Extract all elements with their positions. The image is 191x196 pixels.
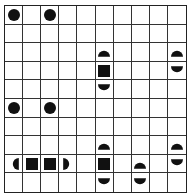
half-bottom-shape-icon bbox=[171, 159, 183, 165]
half-bottom-shape-icon bbox=[171, 66, 183, 72]
grid-cell bbox=[150, 80, 168, 99]
grid-cell bbox=[23, 62, 41, 81]
grid-cell bbox=[23, 99, 41, 118]
grid-cell bbox=[77, 6, 95, 25]
grid-cell bbox=[5, 118, 23, 137]
grid-cell bbox=[23, 155, 41, 174]
grid-cell bbox=[5, 155, 23, 174]
half-top-shape-icon bbox=[98, 51, 110, 57]
grid-cell bbox=[23, 118, 41, 137]
grid-cell bbox=[168, 25, 186, 44]
grid-cell bbox=[59, 25, 77, 44]
half-bottom-shape-icon bbox=[134, 178, 146, 184]
grid-cell bbox=[41, 6, 59, 25]
grid-cell bbox=[77, 25, 95, 44]
grid-cell bbox=[59, 43, 77, 62]
square-shape-icon bbox=[98, 158, 110, 170]
grid-cell bbox=[5, 173, 23, 192]
grid-cell bbox=[96, 80, 114, 99]
grid-cell bbox=[5, 25, 23, 44]
grid-cell bbox=[41, 136, 59, 155]
grid-cell bbox=[5, 62, 23, 81]
grid-cell bbox=[168, 173, 186, 192]
grid-cell bbox=[168, 136, 186, 155]
grid-cell bbox=[41, 118, 59, 137]
grid-cell bbox=[150, 43, 168, 62]
grid-cell bbox=[59, 155, 77, 174]
grid-cell bbox=[132, 173, 150, 192]
grid-cell bbox=[96, 99, 114, 118]
square-shape-icon bbox=[26, 158, 38, 170]
grid-cell bbox=[23, 80, 41, 99]
circle-shape-icon bbox=[44, 9, 56, 21]
grid-cell bbox=[41, 25, 59, 44]
half-right-shape-icon bbox=[63, 158, 69, 170]
grid-cell bbox=[132, 99, 150, 118]
grid-cell bbox=[59, 118, 77, 137]
grid-cell bbox=[59, 6, 77, 25]
circle-shape-icon bbox=[8, 9, 20, 21]
grid-cell bbox=[77, 80, 95, 99]
grid-cell bbox=[5, 6, 23, 25]
grid-cell bbox=[150, 6, 168, 25]
grid-cell bbox=[114, 6, 132, 25]
grid-cell bbox=[150, 62, 168, 81]
grid-cell bbox=[23, 43, 41, 62]
grid-cell bbox=[41, 155, 59, 174]
grid-cell bbox=[41, 80, 59, 99]
grid-cell bbox=[132, 118, 150, 137]
grid-cell bbox=[150, 99, 168, 118]
grid-cell bbox=[59, 173, 77, 192]
grid-cell bbox=[150, 155, 168, 174]
grid-cell bbox=[59, 80, 77, 99]
grid-cell bbox=[59, 136, 77, 155]
grid-cell bbox=[168, 99, 186, 118]
half-top-shape-icon bbox=[171, 51, 183, 57]
grid-cell bbox=[150, 25, 168, 44]
square-shape-icon bbox=[44, 158, 56, 170]
grid-cell bbox=[96, 6, 114, 25]
grid-cell bbox=[114, 25, 132, 44]
grid-cell bbox=[114, 43, 132, 62]
grid-cell bbox=[77, 136, 95, 155]
grid-cell bbox=[114, 62, 132, 81]
grid-cell bbox=[23, 6, 41, 25]
grid-cell bbox=[132, 43, 150, 62]
grid-cell bbox=[96, 43, 114, 62]
grid-cell bbox=[150, 118, 168, 137]
grid-cell bbox=[132, 6, 150, 25]
grid-cell bbox=[77, 62, 95, 81]
circle-shape-icon bbox=[44, 102, 56, 114]
grid-cell bbox=[41, 43, 59, 62]
grid-cell bbox=[132, 136, 150, 155]
half-top-shape-icon bbox=[98, 144, 110, 150]
grid-cell bbox=[96, 62, 114, 81]
grid-cell bbox=[168, 118, 186, 137]
half-top-shape-icon bbox=[171, 144, 183, 150]
grid-cell bbox=[41, 173, 59, 192]
grid-cell bbox=[96, 118, 114, 137]
grid-cell bbox=[59, 99, 77, 118]
grid-cell bbox=[5, 80, 23, 99]
grid-cell bbox=[114, 173, 132, 192]
grid-cell bbox=[23, 25, 41, 44]
grid-cell bbox=[5, 43, 23, 62]
grid-cell bbox=[96, 155, 114, 174]
grid-cell bbox=[41, 99, 59, 118]
grid-cell bbox=[77, 118, 95, 137]
grid-cell bbox=[114, 136, 132, 155]
square-shape-icon bbox=[98, 65, 110, 77]
grid-cell bbox=[132, 25, 150, 44]
grid-cell bbox=[96, 25, 114, 44]
grid-cell bbox=[77, 43, 95, 62]
grid-cell bbox=[23, 173, 41, 192]
grid-cell bbox=[168, 155, 186, 174]
grid-cell bbox=[168, 43, 186, 62]
grid-cell bbox=[168, 62, 186, 81]
half-left-shape-icon bbox=[12, 158, 18, 170]
circle-shape-icon bbox=[8, 102, 20, 114]
grid-cell bbox=[114, 99, 132, 118]
grid-cell bbox=[114, 80, 132, 99]
grid-cell bbox=[77, 173, 95, 192]
grid-cell bbox=[114, 118, 132, 137]
